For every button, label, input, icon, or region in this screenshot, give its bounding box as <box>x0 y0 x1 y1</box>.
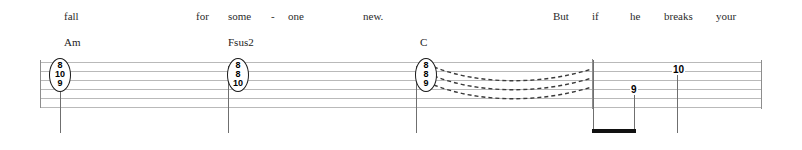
chord-symbol-am: Am <box>64 36 81 48</box>
beam-stem-left <box>593 60 594 130</box>
chord-symbol-c: C <box>420 36 427 48</box>
slur-curve <box>434 76 592 90</box>
staff-line <box>40 89 762 90</box>
tab-staff <box>40 58 762 110</box>
tab-chord-stack-c[interactable]: 8 8 9 <box>415 58 437 92</box>
note-stem <box>634 90 635 130</box>
slur-curves-group <box>420 55 610 115</box>
lyric-word: fall <box>64 10 79 22</box>
fret-number-10[interactable]: 10 <box>672 65 685 75</box>
lyric-word: But <box>553 10 569 22</box>
chord-symbol-fsus2: Fsus2 <box>228 36 254 48</box>
fret-number: 10 <box>227 79 249 88</box>
lyric-word: if <box>592 10 599 22</box>
fret-number: 9 <box>49 79 71 88</box>
staff-line <box>40 62 762 63</box>
lyric-word: one <box>288 10 304 22</box>
staff-line <box>40 71 762 72</box>
tablature-sheet: fall for some - one new. But if he break… <box>0 0 802 150</box>
staff-line <box>40 98 762 99</box>
note-stem <box>677 70 678 133</box>
lyric-syllable-hyphen: - <box>271 10 275 22</box>
staff-line <box>40 80 762 81</box>
lyric-word: breaks <box>664 10 693 22</box>
fret-number-9[interactable]: 9 <box>630 85 638 95</box>
lyric-word: your <box>716 10 736 22</box>
lyric-word: new. <box>363 10 383 22</box>
lyric-word: he <box>630 10 640 22</box>
tab-chord-stack-am[interactable]: 8 10 9 <box>49 58 71 92</box>
lyric-word: for <box>196 10 209 22</box>
fret-number: 9 <box>415 79 437 88</box>
note-beam <box>592 129 636 133</box>
slur-curve <box>434 85 592 99</box>
barline-start <box>40 60 41 108</box>
staff-line <box>40 107 762 108</box>
lyric-word: some <box>228 10 251 22</box>
slur-curve <box>434 67 592 81</box>
barline-end <box>761 60 762 109</box>
tab-chord-stack-fsus2[interactable]: 8 8 10 <box>227 58 249 92</box>
